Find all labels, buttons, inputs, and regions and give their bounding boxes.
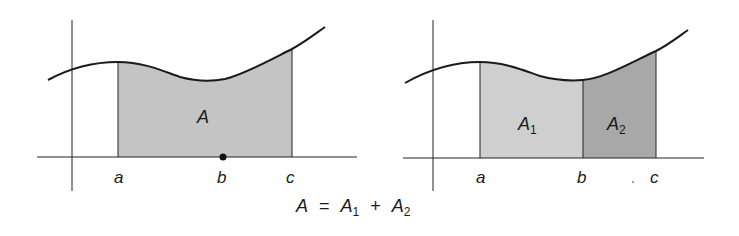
shaded-region-a2 <box>583 51 656 158</box>
x-label-a: a <box>114 168 123 187</box>
equation: A = A1 + A2 <box>295 196 411 220</box>
x-label-b: b <box>217 168 226 187</box>
x-label-c: c <box>650 168 659 187</box>
x-label-a: a <box>476 168 485 187</box>
x-label-c: c <box>286 168 295 187</box>
additivity-diagram: A a b c A1 A2 a b c A = A1 + A2 <box>0 0 739 236</box>
stray-dot <box>632 181 634 183</box>
x-label-b: b <box>577 168 586 187</box>
right-panel: A1 A2 a b c <box>403 20 704 191</box>
left-panel: A a b c <box>37 20 357 191</box>
equation-text: A = A1 + A2 <box>295 196 411 220</box>
region-label-a: A <box>196 107 209 127</box>
point-b-marker <box>220 154 227 161</box>
shaded-region-a1 <box>480 62 583 158</box>
